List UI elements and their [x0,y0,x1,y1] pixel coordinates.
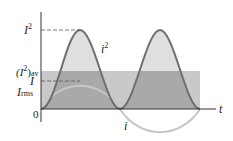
label-rms: Irms [17,86,33,98]
label-i-squared-peak: I2 [24,23,32,36]
label-origin: 0 [33,109,39,120]
label-curve-i-squared: i2 [101,42,108,55]
label-curve-i: i [124,120,127,132]
label-i-squared-avg: (I2)av [16,65,39,78]
label-x-axis-t: t [219,103,222,115]
